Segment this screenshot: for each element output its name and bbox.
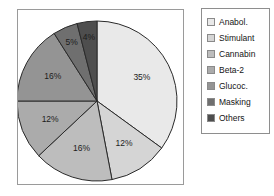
legend-color-swatch (207, 114, 215, 122)
pie-chart: 35%12%16%12%16%5%4% (18, 10, 183, 184)
chart-legend: Anabol.StimulantCannabinBeta-2Glucoc.Mas… (201, 8, 270, 134)
legend-item[interactable]: Others (207, 110, 269, 126)
legend-item-label: Cannabin (219, 50, 255, 59)
pie-slice-data-label: 4% (83, 32, 96, 42)
legend-item-label: Masking (219, 98, 251, 107)
legend-item[interactable]: Anabol. (207, 14, 269, 30)
pie-slice-data-label: 16% (44, 71, 61, 81)
legend-item-label: Anabol. (219, 18, 248, 27)
legend-item[interactable]: Stimulant (207, 30, 269, 46)
pie-slice-data-label: 35% (133, 72, 150, 82)
legend-color-swatch (207, 82, 215, 90)
legend-item[interactable]: Cannabin (207, 46, 269, 62)
legend-color-swatch (207, 34, 215, 42)
pie-chart-figure: 35%12%16%12%16%5%4% Anabol.StimulantCann… (0, 0, 274, 196)
legend-color-swatch (207, 18, 215, 26)
legend-color-swatch (207, 50, 215, 58)
pie-slice-data-label: 5% (65, 37, 78, 47)
legend-item-label: Others (219, 114, 245, 123)
legend-color-swatch (207, 66, 215, 74)
pie-slice-group (18, 21, 177, 181)
legend-item[interactable]: Glucoc. (207, 78, 269, 94)
legend-item[interactable]: Beta-2 (207, 62, 269, 78)
legend-item-label: Stimulant (219, 34, 254, 43)
legend-item-label: Beta-2 (219, 66, 244, 75)
legend-color-swatch (207, 98, 215, 106)
pie-slice-data-label: 12% (42, 114, 59, 124)
pie-slice-data-label: 16% (73, 143, 90, 153)
pie-slice-data-label: 12% (116, 138, 133, 148)
legend-item[interactable]: Masking (207, 94, 269, 110)
legend-item-label: Glucoc. (219, 82, 248, 91)
plot-area-frame: 35%12%16%12%16%5%4% (17, 9, 184, 185)
